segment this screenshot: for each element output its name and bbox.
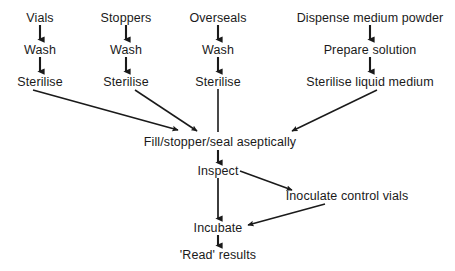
node-stoppers: Stoppers	[101, 12, 152, 25]
node-overseals: Overseals	[189, 12, 246, 25]
node-incubate: Incubate	[194, 222, 243, 235]
node-dispense-medium-powder: Dispense medium powder	[297, 12, 444, 25]
node-vials: Vials	[26, 12, 53, 25]
node-read-results: 'Read' results	[180, 249, 256, 262]
node-inspect: Inspect	[197, 165, 238, 178]
node-sterilise-stoppers: Sterilise	[103, 76, 148, 89]
node-sterilise-vials: Sterilise	[17, 76, 62, 89]
flowchart-diagram: Vials Wash Sterilise Stoppers Wash Steri…	[0, 0, 455, 271]
node-prepare-solution: Prepare solution	[324, 44, 417, 57]
node-sterilise-overseals: Sterilise	[195, 76, 240, 89]
edge-sterilise2-fill	[135, 90, 197, 131]
edge-inspect-inoculate	[240, 171, 292, 190]
node-inoculate-control-vials: Inoculate control vials	[286, 190, 409, 203]
node-wash-stoppers: Wash	[110, 44, 142, 57]
edge-inoculate-incubate	[248, 204, 325, 225]
node-sterilise-liquid-medium: Sterilise liquid medium	[306, 76, 433, 89]
edge-sterilise4-fill	[292, 90, 377, 131]
node-wash-vials: Wash	[24, 44, 56, 57]
node-wash-overseals: Wash	[202, 44, 234, 57]
node-fill-stopper-seal-aseptically: Fill/stopper/seal aseptically	[144, 136, 296, 149]
edge-sterilise1-fill	[33, 90, 178, 130]
